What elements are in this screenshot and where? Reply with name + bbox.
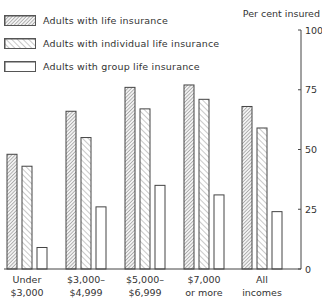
y-tick-label: 100 [305,25,322,36]
group-insurance-bar [272,212,282,269]
life-insurance-bar [7,154,17,269]
bars-layer [4,85,301,269]
y-axis: 0255075100 [298,25,322,275]
y-tick-label: 75 [305,84,317,95]
group-insurance-bar [155,185,165,269]
x-category-label: Allincomes [234,273,290,299]
life-insurance-bar [125,87,135,269]
x-category-label: $3,000–$4,999 [58,273,114,299]
life-insurance-bar [184,85,194,269]
individual-insurance-bar [140,109,150,269]
individual-insurance-bar [22,166,32,269]
group-insurance-bar [37,247,47,269]
x-category-label: Under$3,000 [0,273,55,299]
individual-insurance-bar [81,138,91,269]
life-insurance-bar [66,111,76,269]
y-tick-label: 0 [305,264,311,275]
bar-chart-plot: 0255075100 [0,0,322,300]
individual-insurance-bar [257,128,267,269]
x-category-label: $7,000or more [176,273,232,299]
y-tick-label: 25 [305,204,317,215]
life-insurance-bar [242,106,252,269]
x-category-label: $5,000–$6,999 [117,273,173,299]
group-insurance-bar [96,207,106,269]
y-tick-label: 50 [305,144,317,155]
individual-insurance-bar [199,99,209,269]
group-insurance-bar [214,195,224,269]
